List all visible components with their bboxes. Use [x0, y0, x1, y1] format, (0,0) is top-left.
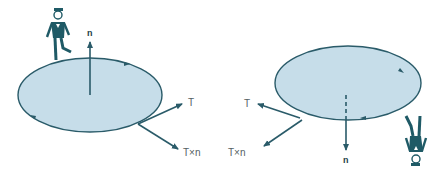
- left-tangent-label: T: [188, 97, 194, 108]
- right-normal-label: n: [343, 155, 349, 165]
- right-cross-label: T×n: [228, 147, 246, 158]
- right-surface-ellipse: [275, 46, 421, 120]
- left-cross-vector: [138, 124, 178, 149]
- right-cross-vector: [264, 120, 302, 146]
- left-cross-label: T×n: [183, 147, 201, 158]
- orientation-diagram: n T T×n n T T×n: [0, 0, 442, 172]
- person-upright-icon: [47, 8, 71, 60]
- right-panel: n T T×n: [228, 46, 426, 166]
- left-panel: n T T×n: [18, 8, 201, 158]
- person-upside-down-icon: [406, 116, 426, 166]
- left-normal-label: n: [87, 28, 93, 38]
- right-tangent-label: T: [244, 98, 250, 109]
